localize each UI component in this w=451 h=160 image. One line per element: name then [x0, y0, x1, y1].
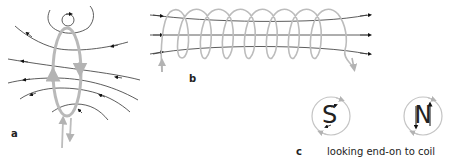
- field-line-1-arrow-b: [27, 33, 32, 37]
- field-line-4-arrow-b: [31, 93, 36, 95]
- pole-n-current-arrow-bottom: [412, 132, 418, 135]
- current-loop: [53, 28, 81, 116]
- field-line-3: [8, 78, 138, 100]
- field-line-2-arrow-a: [116, 77, 122, 78]
- solenoid-lead-out: [352, 58, 354, 68]
- field-loop-top-small: [62, 14, 74, 26]
- pole-s-current-arrow-top: [336, 98, 342, 100]
- panel-label-a: a: [11, 128, 18, 139]
- pole-n-letter: N: [414, 102, 431, 128]
- lead-out: [70, 118, 71, 138]
- pole-n-current-arrow-top: [428, 98, 434, 100]
- solenoid-field-line-bottom: [153, 47, 367, 55]
- panel-a-loop: [8, 6, 140, 148]
- field-line-3-arrow: [24, 79, 30, 80]
- panel-label-c: c: [296, 146, 302, 157]
- pole-s-letter: S: [322, 102, 337, 128]
- field-line-5-arrow: [79, 110, 82, 113]
- lead-in: [62, 120, 63, 148]
- diagram-canvas: [0, 0, 451, 160]
- panel-b-solenoid: [150, 9, 370, 72]
- field-line-2-arrow-b: [22, 61, 28, 62]
- panel-label-b: b: [189, 73, 196, 84]
- panel-c-caption: looking end-on to coil: [327, 146, 435, 157]
- pole-s-current-arrow-bottom: [320, 132, 326, 135]
